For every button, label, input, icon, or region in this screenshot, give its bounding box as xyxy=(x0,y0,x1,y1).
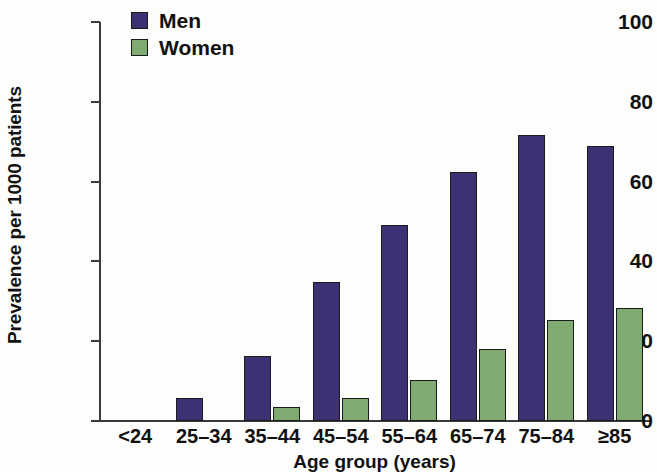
x-axis-tick-label: ≥85 xyxy=(570,425,657,448)
y-axis-tick xyxy=(91,260,100,262)
y-axis-tick xyxy=(91,101,100,103)
y-axis-tick xyxy=(91,21,100,23)
legend-item: Women xyxy=(131,35,234,60)
bar-men-2 xyxy=(244,356,271,421)
bar-women-2 xyxy=(273,407,300,421)
y-axis-tick xyxy=(91,420,100,422)
bar-women-3 xyxy=(342,398,369,421)
legend-swatch-icon xyxy=(131,12,148,29)
bar-men-7 xyxy=(587,146,614,421)
legend-item: Men xyxy=(131,8,234,33)
bar-men-1 xyxy=(176,398,203,421)
legend-label: Men xyxy=(159,10,201,31)
bar-women-5 xyxy=(479,349,506,421)
bar-men-5 xyxy=(450,172,477,421)
y-axis-tick xyxy=(91,340,100,342)
bar-women-4 xyxy=(410,380,437,421)
y-axis-title: Prevalence per 1000 patients xyxy=(0,0,30,430)
bar-men-4 xyxy=(381,225,408,421)
legend-label: Women xyxy=(159,37,234,58)
bar-women-7 xyxy=(616,308,643,421)
bar-women-6 xyxy=(547,320,574,421)
bar-men-3 xyxy=(313,282,340,421)
legend-swatch-icon xyxy=(131,39,148,56)
chart-legend: MenWomen xyxy=(131,8,234,62)
x-axis-title: Age group (years) xyxy=(99,451,650,473)
plot-area xyxy=(101,22,649,421)
y-axis-tick xyxy=(91,181,100,183)
bar-men-6 xyxy=(518,135,545,421)
y-axis-title-text: Prevalence per 1000 patients xyxy=(4,86,26,344)
